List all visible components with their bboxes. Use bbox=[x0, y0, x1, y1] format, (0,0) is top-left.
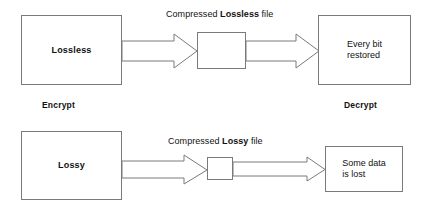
lossy-compressed-box bbox=[207, 157, 233, 180]
arrow-lossy-compress bbox=[122, 155, 208, 185]
lossless-compressed-box bbox=[197, 32, 246, 69]
compressed-lossy-suffix: file bbox=[248, 136, 262, 146]
lossy-source-box: Lossy bbox=[21, 131, 122, 200]
compressed-lossy-file-label: Compressed Lossy file bbox=[168, 136, 263, 146]
lossless-target-label: Every bit restored bbox=[347, 39, 382, 61]
lossless-source-label: Lossless bbox=[51, 45, 91, 56]
arrow-lossless-compress bbox=[122, 33, 198, 69]
lossless-target-box: Every bit restored bbox=[318, 15, 411, 85]
lossless-source-box: Lossless bbox=[21, 15, 122, 85]
compressed-lossy-prefix: Compressed bbox=[168, 136, 222, 146]
lossy-target-label: Some data is lost bbox=[342, 158, 386, 180]
arrow-lossless-decompress bbox=[246, 33, 320, 69]
compressed-lossless-strong: Lossless bbox=[220, 9, 259, 19]
compressed-lossless-prefix: Compressed bbox=[166, 9, 220, 19]
compressed-lossless-file-label: Compressed Lossless file bbox=[166, 9, 273, 19]
compressed-lossless-suffix: file bbox=[259, 9, 273, 19]
lossy-source-label: Lossy bbox=[58, 160, 85, 171]
encrypt-caption: Encrypt bbox=[42, 100, 75, 110]
lossy-target-box: Some data is lost bbox=[325, 146, 403, 192]
compression-diagram: Lossless Compressed Lossless file Every … bbox=[0, 0, 431, 207]
compressed-lossy-strong: Lossy bbox=[222, 136, 248, 146]
arrow-lossy-decompress bbox=[233, 157, 326, 182]
decrypt-caption: Decrypt bbox=[344, 100, 377, 110]
